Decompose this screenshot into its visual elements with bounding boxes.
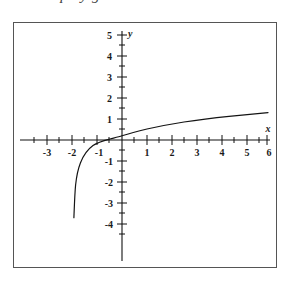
x-tick-label-3: 3: [195, 147, 200, 158]
figure-caption-strip: raph y g: [0, 0, 293, 16]
x-tick-label-4: 4: [220, 147, 225, 158]
x-tick-label--2: -2: [68, 147, 76, 158]
y-tick-label-4: 4: [107, 51, 112, 62]
y-tick-label--3: -3: [105, 198, 113, 209]
y-tick-label--1: -1: [105, 156, 113, 167]
y-tick-label-5: 5: [107, 30, 112, 41]
y-axis-label: y: [127, 28, 133, 39]
figure-caption-text: raph y g: [46, 0, 100, 4]
x-tick-label-1: 1: [145, 147, 150, 158]
x-tick-label-6: 6: [267, 147, 272, 158]
log-curve: [74, 113, 268, 218]
y-tick-label-2: 2: [107, 93, 112, 104]
y-tick-label-1: 1: [107, 114, 112, 125]
plot-canvas: -3 -2 -1 1 2 3 4 5 6 5 4 3 2 1 -1 -2 -3 …: [14, 23, 276, 267]
x-tick-label-5: 5: [245, 147, 250, 158]
plot-frame: -3 -2 -1 1 2 3 4 5 6 5 4 3 2 1 -1 -2 -3 …: [13, 22, 277, 268]
x-axis-label: x: [265, 123, 271, 134]
x-tick-label--1: -1: [95, 147, 103, 158]
y-tick-label--2: -2: [105, 177, 113, 188]
x-tick-label-2: 2: [170, 147, 175, 158]
x-tick-label--3: -3: [43, 147, 51, 158]
y-tick-label--4: -4: [105, 219, 113, 230]
y-tick-label-3: 3: [107, 72, 112, 83]
